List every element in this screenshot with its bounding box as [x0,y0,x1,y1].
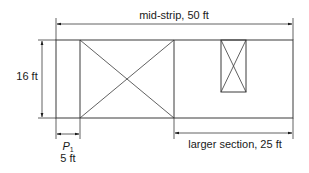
larger-section-label: larger section, 25 ft [188,138,282,150]
mid-strip-dimension: mid-strip, 50 ft [56,9,293,40]
small-crossed-panel [221,40,246,92]
larger-section-dimension: larger section, 25 ft [174,118,293,150]
p1-dimension: P1 5 ft [56,118,80,164]
large-crossed-panel [80,40,174,118]
floor-plan-diagram: mid-strip, 50 ft 16 ft P1 5 ft larger se… [0,0,309,173]
height-label: 16 ft [16,70,37,82]
p1-width-label: 5 ft [60,152,75,164]
mid-strip-label: mid-strip, 50 ft [139,9,209,21]
height-dimension: 16 ft [16,40,56,118]
